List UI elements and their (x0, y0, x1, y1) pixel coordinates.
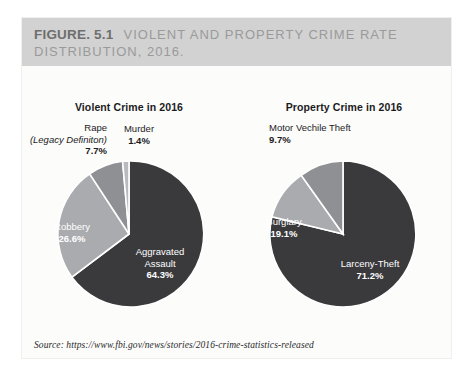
chart-property-crime: Property Crime in 2016 Motor Vechile The… (237, 66, 451, 358)
pie-label-robbery-pct: 26.6% (36, 233, 108, 245)
pie-wrap-violent-crime (22, 66, 236, 358)
figure-title-line-1: FIGURE. 5.1VIOLENT AND PROPERTY CRIME RA… (34, 26, 451, 43)
pie-label-motor-vehicle-theft-name: Motor Vechile Theft (269, 122, 351, 134)
figure-frame: FIGURE. 5.1VIOLENT AND PROPERTY CRIME RA… (22, 18, 451, 358)
pie-label-rape-pct: 7.7% (10, 145, 107, 157)
pie-label-burglary-name: Burglary (248, 216, 320, 228)
pie-label-larceny-theft-pct: 71.2% (325, 270, 415, 282)
pie-wrap-property-crime (237, 66, 451, 358)
pie-label-burglary-pct: 19.1% (248, 228, 320, 240)
pie-label-aggravated-assault: Aggravated Assault 64.3% (118, 246, 202, 281)
pie-label-aggravated-assault-pct: 64.3% (118, 269, 202, 281)
figure-title-band: FIGURE. 5.1VIOLENT AND PROPERTY CRIME RA… (22, 18, 451, 66)
figure-page: FIGURE. 5.1VIOLENT AND PROPERTY CRIME RA… (0, 0, 473, 386)
pie-label-aggravated-assault-name-2: Assault (118, 258, 202, 270)
figure-body: Violent Crime in 2016 (22, 66, 451, 358)
pie-label-robbery: Robbery 26.6% (36, 221, 108, 244)
pie-label-motor-vehicle-theft-pct: 9.7% (269, 134, 351, 146)
figure-number: FIGURE. 5.1 (34, 27, 113, 42)
pie-label-burglary: Burglary 19.1% (248, 216, 320, 239)
pie-label-robbery-name: Robbery (36, 221, 108, 233)
pie-label-larceny-theft: Larceny-Theft 71.2% (325, 258, 415, 281)
figure-source: Source: https://www.fbi.gov/news/stories… (34, 340, 314, 350)
pie-label-murder-name: Murder (111, 123, 167, 135)
pie-label-murder-pct: 1.4% (111, 135, 167, 147)
pie-label-murder: Murder 1.4% (111, 123, 167, 146)
figure-title-text: VIOLENT AND PROPERTY CRIME RATE (123, 27, 397, 42)
pie-label-aggravated-assault-name-1: Aggravated (118, 246, 202, 258)
figure-title-line-2: DISTRIBUTION, 2016. (34, 43, 451, 61)
pie-label-larceny-theft-name: Larceny-Theft (325, 258, 415, 270)
chart-violent-crime: Violent Crime in 2016 (22, 66, 236, 358)
pie-label-rape: Rape (Legacy Definiton) 7.7% (10, 122, 107, 157)
pie-label-rape-name: Rape (10, 122, 107, 134)
pie-label-rape-sub: (Legacy Definiton) (10, 134, 107, 146)
pie-label-motor-vehicle-theft: Motor Vechile Theft 9.7% (269, 122, 351, 145)
